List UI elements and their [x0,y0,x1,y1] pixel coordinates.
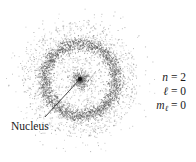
qn-ml-symbol: m [156,99,164,111]
qn-ml-equals: = [168,99,180,111]
quantum-number-l: ℓ = 0 [163,86,186,98]
nucleus-label: Nucleus [11,121,49,133]
orbital-figure: Nucleus n = 2 ℓ = 0 mℓ = 0 [0,0,196,162]
qn-l-equals: = [168,85,180,97]
qn-l-value: 0 [180,85,186,97]
qn-n-value: 2 [180,71,186,83]
quantum-number-ml: mℓ = 0 [156,100,186,113]
qn-ml-value: 0 [180,99,186,111]
qn-n-equals: = [168,71,180,83]
quantum-number-n: n = 2 [162,72,186,84]
